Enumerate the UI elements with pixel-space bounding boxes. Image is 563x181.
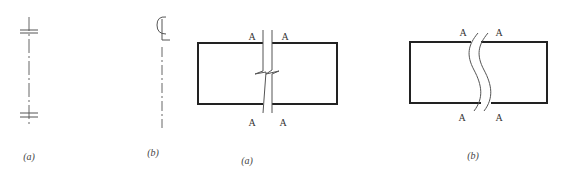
section-label-a-top-right: A [281, 32, 288, 42]
caption-symbol-b: (b) [147, 148, 159, 158]
section-label-b-bottom-right: A [495, 113, 502, 123]
rectangle-left-part [198, 43, 263, 104]
l-glyph-icon [162, 19, 170, 40]
rectangle-right-part [272, 43, 337, 104]
wavy-break-line-right [479, 33, 491, 111]
break-rectangle-a [198, 30, 337, 113]
caption-break-a: (a) [241, 156, 253, 166]
section-label-b-top-right: A [495, 28, 502, 38]
section-label-b-top-left: A [459, 28, 466, 38]
rectangle-left-part [410, 42, 481, 103]
caption-symbol-a: (a) [23, 152, 35, 162]
break-rectangle-b [410, 33, 547, 111]
section-label-a-bottom-right: A [279, 118, 286, 128]
centerline-symbol [157, 17, 170, 128]
section-label-a-bottom-left: A [248, 118, 255, 128]
caption-break-b: (b) [467, 151, 479, 161]
section-label-a-top-left: A [248, 32, 255, 42]
wavy-break-line-left [469, 33, 481, 111]
symmetry-symbol [20, 17, 38, 127]
section-label-b-bottom-left: A [458, 113, 465, 123]
